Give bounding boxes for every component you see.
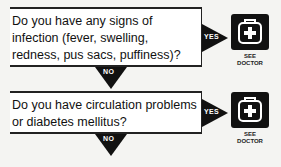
doctor-bag-icon — [231, 14, 269, 50]
question-box-circulation: Do you have circulation problems or diab… — [10, 91, 202, 134]
caption-line-1: SEE — [228, 53, 272, 60]
see-doctor-caption: SEE DOCTOR — [228, 53, 272, 67]
doctor-bag-icon — [231, 92, 269, 128]
yes-label: YES — [204, 33, 219, 40]
caption-line-1: SEE — [228, 131, 272, 138]
question-box-infection: Do you have any signs of infection (feve… — [10, 7, 202, 67]
no-arrow: NO — [95, 134, 127, 156]
caption-line-2: DOCTOR — [228, 60, 272, 67]
yes-arrow: YES — [202, 99, 228, 127]
no-label: NO — [103, 135, 115, 142]
no-arrow: NO — [95, 67, 127, 89]
question-text: Do you have any signs of infection (feve… — [12, 14, 181, 62]
yes-label: YES — [204, 108, 219, 115]
caption-line-2: DOCTOR — [228, 138, 272, 145]
question-text: Do you have circulation problems or diab… — [12, 98, 197, 129]
see-doctor-caption: SEE DOCTOR — [228, 131, 272, 145]
yes-arrow: YES — [202, 24, 228, 52]
no-label: NO — [103, 68, 115, 75]
